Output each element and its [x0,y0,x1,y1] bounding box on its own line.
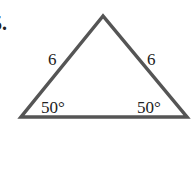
triangle-diagram: 6 6 50° 50° [0,0,194,181]
right-side-label: 6 [147,50,156,69]
bottom-right-angle-label: 50° [137,98,161,117]
left-side-label: 6 [48,50,57,69]
bottom-left-angle-label: 50° [41,98,65,117]
